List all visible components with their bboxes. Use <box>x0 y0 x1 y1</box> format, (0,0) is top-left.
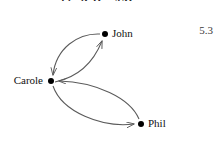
edge-carole-to-john <box>55 41 102 82</box>
directed-graph <box>0 0 221 143</box>
edge-john-to-carole <box>53 34 100 75</box>
node-dot-phil <box>138 121 144 127</box>
edge-carole-to-phil <box>53 86 134 125</box>
node-label-phil: Phil <box>148 117 166 129</box>
node-dot-carole <box>48 78 54 84</box>
figure-page: 12.2CD4AC 5.3 John Carole Phil <box>0 0 221 143</box>
node-label-john: John <box>112 27 133 39</box>
node-label-carole: Carole <box>14 74 43 86</box>
node-dot-john <box>102 31 108 37</box>
edge-phil-to-carole <box>59 81 139 119</box>
